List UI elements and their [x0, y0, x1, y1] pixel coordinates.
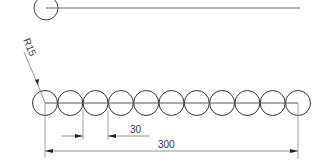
- top-view: [34, 0, 300, 20]
- radius-leader: R15: [21, 36, 45, 103]
- pitch-label: 30: [130, 124, 142, 135]
- overall-label: 300: [158, 139, 175, 150]
- pitch-dimension: 30: [62, 124, 150, 138]
- radius-label: R15: [21, 36, 38, 58]
- technical-drawing: R15 30 300: [0, 0, 328, 167]
- overall-dimension: 300: [45, 139, 298, 153]
